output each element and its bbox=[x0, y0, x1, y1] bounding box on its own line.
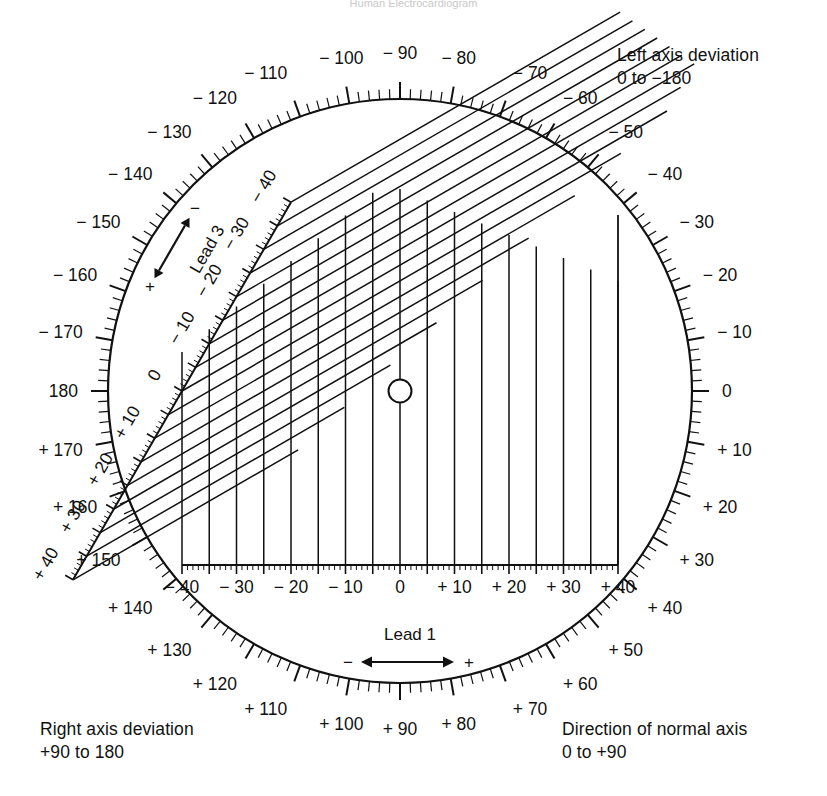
lead3-minor-tick bbox=[229, 299, 233, 302]
protractor-minor-tick bbox=[420, 90, 421, 100]
lead3-major-tick bbox=[92, 528, 100, 533]
note-normal-axis-direction: Direction of normal axis0 to +90 bbox=[562, 718, 747, 764]
protractor-degree-label: + 10 bbox=[717, 440, 752, 460]
protractor-major-tick bbox=[96, 337, 113, 340]
lead3-minor-tick bbox=[251, 261, 255, 264]
protractor-minor-tick bbox=[636, 213, 644, 219]
protractor-minor-tick bbox=[683, 318, 693, 320]
protractor-minor-tick bbox=[99, 411, 109, 412]
lead3-major-tick bbox=[201, 339, 209, 344]
protractor-degree-label: − 20 bbox=[703, 265, 738, 285]
lead3-arrow-shaft bbox=[159, 226, 185, 271]
protractor-major-tick bbox=[451, 87, 454, 104]
protractor-minor-tick bbox=[214, 621, 220, 629]
lead3-minor-tick bbox=[161, 417, 165, 420]
protractor-major-tick bbox=[653, 237, 668, 246]
lead3-major-tick bbox=[215, 316, 223, 321]
protractor-minor-tick bbox=[595, 608, 602, 615]
protractor-minor-tick bbox=[555, 639, 560, 647]
lead3-minor-tick bbox=[115, 497, 119, 500]
lead3-minor-tick bbox=[213, 327, 217, 330]
protractor-minor-tick bbox=[691, 411, 701, 412]
protractor-degree-label: 0 bbox=[722, 381, 732, 401]
lead3-minor-tick bbox=[169, 403, 173, 406]
protractor-minor-tick bbox=[667, 510, 676, 514]
protractor-minor-tick bbox=[537, 124, 542, 133]
grid-line-lead3 bbox=[114, 323, 437, 509]
lead1-scale-label: − 20 bbox=[274, 577, 309, 597]
lead3-minor-tick bbox=[235, 289, 239, 292]
protractor-minor-tick bbox=[681, 471, 691, 474]
protractor-minor-tick bbox=[240, 135, 245, 143]
protractor-minor-tick bbox=[563, 141, 569, 149]
lead3-minor-tick bbox=[88, 544, 92, 547]
protractor-major-tick bbox=[294, 665, 300, 681]
chart-grid-group bbox=[73, 12, 694, 580]
protractor-minor-tick bbox=[358, 92, 359, 102]
protractor-minor-tick bbox=[368, 91, 369, 101]
protractor-minor-tick bbox=[537, 649, 542, 658]
lead3-minor-tick bbox=[101, 521, 105, 524]
protractor-minor-tick bbox=[471, 98, 473, 108]
note-left-axis-title: Left axis deviation bbox=[617, 45, 759, 65]
protractor-minor-tick bbox=[671, 500, 680, 504]
lead3-scale-label: − 10 bbox=[164, 308, 199, 348]
protractor-degree-label: − 170 bbox=[39, 322, 84, 342]
protractor-major-tick bbox=[294, 101, 300, 117]
lead3-minor-tick bbox=[104, 516, 108, 519]
lead3-minor-tick bbox=[153, 431, 157, 434]
lead3-minor-tick bbox=[199, 351, 203, 354]
protractor-minor-tick bbox=[617, 189, 624, 196]
protractor-minor-tick bbox=[327, 98, 329, 108]
protractor-minor-tick bbox=[268, 653, 272, 662]
protractor-minor-tick bbox=[667, 268, 676, 272]
lead3-minor-tick bbox=[221, 313, 225, 316]
protractor-major-tick bbox=[688, 442, 705, 445]
lead3-scale-label: + 20 bbox=[83, 449, 118, 489]
protractor-degree-label: + 40 bbox=[648, 598, 683, 618]
lead3-minor-tick bbox=[276, 219, 280, 222]
lead3-minor-tick bbox=[265, 237, 269, 240]
protractor-minor-tick bbox=[461, 677, 463, 687]
protractor-minor-tick bbox=[683, 462, 693, 464]
lead3-major-tick bbox=[106, 505, 114, 510]
grid-line-lead3 bbox=[250, 38, 657, 273]
lead3-major-tick bbox=[188, 363, 196, 368]
protractor-minor-tick bbox=[509, 111, 513, 120]
protractor-minor-tick bbox=[327, 674, 329, 684]
lead3-minor-tick bbox=[257, 252, 261, 255]
lead3-minor-tick bbox=[281, 209, 285, 212]
page-title: Human Electrocardiogram bbox=[0, 0, 827, 9]
lead3-minor-tick bbox=[238, 285, 242, 288]
protractor-major-tick bbox=[500, 665, 506, 681]
protractor-minor-tick bbox=[580, 621, 586, 629]
protractor-minor-tick bbox=[190, 174, 197, 181]
lead3-major-tick bbox=[147, 434, 155, 439]
protractor-minor-tick bbox=[176, 189, 183, 196]
protractor-major-tick bbox=[246, 644, 255, 659]
protractor-major-tick bbox=[500, 101, 506, 117]
protractor-minor-tick bbox=[222, 627, 228, 635]
protractor-minor-tick bbox=[690, 359, 700, 360]
lead3-major-tick bbox=[242, 269, 250, 274]
lead3-major-tick bbox=[174, 387, 182, 392]
protractor-minor-tick bbox=[162, 571, 170, 577]
protractor-minor-tick bbox=[231, 633, 237, 641]
protractor-minor-tick bbox=[317, 101, 320, 111]
protractor-minor-tick bbox=[691, 370, 701, 371]
lead3-minor-tick bbox=[249, 266, 253, 269]
protractor-minor-tick bbox=[490, 669, 493, 679]
protractor-minor-tick bbox=[240, 639, 245, 647]
protractor-minor-tick bbox=[678, 481, 688, 484]
protractor-major-tick bbox=[588, 615, 599, 628]
protractor-minor-tick bbox=[287, 111, 291, 120]
protractor-minor-tick bbox=[150, 554, 158, 560]
protractor-minor-tick bbox=[214, 153, 220, 161]
lead3-minor-tick bbox=[159, 422, 163, 425]
lead3-minor-tick bbox=[90, 540, 94, 543]
protractor-major-tick bbox=[674, 285, 690, 291]
axis-diagram-canvas: 0+ 10+ 20+ 30+ 40+ 50+ 60+ 70+ 80+ 90+ 1… bbox=[0, 0, 827, 796]
protractor-minor-tick bbox=[603, 601, 610, 608]
protractor-minor-tick bbox=[277, 115, 281, 124]
protractor-minor-tick bbox=[129, 259, 138, 263]
